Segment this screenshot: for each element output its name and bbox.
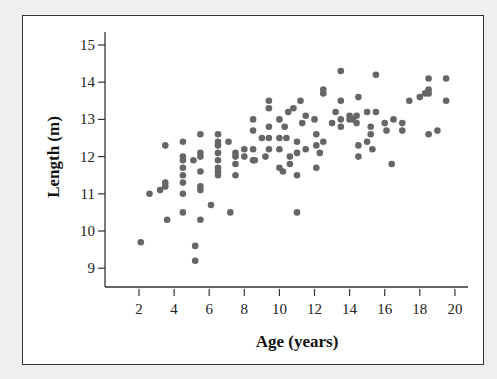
data-point <box>353 120 360 127</box>
data-point <box>302 146 309 153</box>
data-point <box>338 98 345 105</box>
data-point <box>329 120 336 127</box>
data-point <box>197 217 204 224</box>
data-point <box>320 90 327 97</box>
data-point <box>399 120 406 127</box>
y-tick-label: 14 <box>80 74 96 90</box>
data-point <box>425 131 432 138</box>
data-point <box>180 191 187 198</box>
data-point <box>276 135 283 142</box>
data-point <box>192 258 199 265</box>
data-point <box>355 94 362 101</box>
data-point <box>197 153 204 160</box>
data-point <box>250 146 257 153</box>
data-point <box>281 124 288 131</box>
y-tick-label: 13 <box>80 111 95 127</box>
data-point <box>373 109 380 116</box>
x-tick-label: 16 <box>377 301 393 317</box>
data-point <box>208 202 215 209</box>
data-point <box>276 116 283 123</box>
x-tick-label: 6 <box>205 301 213 317</box>
data-point <box>180 157 187 164</box>
data-points <box>138 68 450 264</box>
data-point <box>215 172 222 179</box>
data-point <box>294 172 301 179</box>
data-point <box>425 90 432 97</box>
data-point <box>338 116 345 123</box>
x-axis-title: Age (years) <box>256 332 339 351</box>
data-point <box>215 157 222 164</box>
data-point <box>227 209 234 216</box>
data-point <box>180 172 187 179</box>
data-point <box>266 98 273 105</box>
data-point <box>215 150 222 157</box>
data-point <box>443 75 450 82</box>
y-tick-label: 9 <box>88 260 96 276</box>
x-tick-label: 10 <box>272 301 287 317</box>
data-point <box>180 165 187 172</box>
data-point <box>311 116 318 123</box>
data-point <box>180 179 187 186</box>
data-point <box>399 127 406 134</box>
data-point <box>232 153 239 160</box>
data-point <box>317 150 324 157</box>
data-point <box>388 161 395 168</box>
data-point <box>241 146 248 153</box>
y-tick-label: 12 <box>80 149 95 165</box>
data-point <box>180 138 187 145</box>
data-point <box>294 150 301 157</box>
x-tick-label: 4 <box>170 301 178 317</box>
data-point <box>138 239 145 246</box>
data-point <box>197 168 204 175</box>
data-point <box>290 105 297 112</box>
x-tick-label: 18 <box>412 301 427 317</box>
y-axis-title: Length (m) <box>44 116 63 198</box>
data-point <box>373 72 380 79</box>
y-tick-label: 11 <box>81 186 95 202</box>
data-point <box>164 217 171 224</box>
data-point <box>313 131 320 138</box>
data-point <box>250 127 257 134</box>
data-point <box>266 105 273 112</box>
x-tick-label: 14 <box>342 301 358 317</box>
data-point <box>287 153 294 160</box>
data-point <box>297 98 304 105</box>
data-point <box>197 131 204 138</box>
data-point <box>299 120 306 127</box>
data-point <box>262 153 269 160</box>
data-point <box>259 135 266 142</box>
data-point <box>367 124 374 131</box>
data-point <box>313 142 320 149</box>
data-point <box>443 98 450 105</box>
data-point <box>252 157 259 164</box>
data-point <box>266 135 273 142</box>
data-point <box>190 157 197 164</box>
data-point <box>406 98 413 105</box>
y-tick-label: 15 <box>80 37 95 53</box>
data-point <box>369 146 376 153</box>
data-point <box>266 124 273 131</box>
data-point <box>390 116 397 123</box>
axes: 91011121314152468101214161820 <box>80 32 468 317</box>
data-point <box>367 131 374 138</box>
data-point <box>162 142 169 149</box>
data-point <box>162 179 169 186</box>
data-point <box>276 146 283 153</box>
data-point <box>338 124 345 131</box>
data-point <box>287 161 294 168</box>
data-point <box>338 68 345 75</box>
data-point <box>294 209 301 216</box>
data-point <box>383 127 390 134</box>
data-point <box>302 112 309 119</box>
data-point <box>332 109 339 116</box>
data-point <box>146 191 153 198</box>
data-point <box>215 142 222 149</box>
scatter-plot: 91011121314152468101214161820 Age (years… <box>0 0 497 379</box>
data-point <box>250 116 257 123</box>
data-point <box>225 138 232 145</box>
data-point <box>232 161 239 168</box>
x-tick-label: 2 <box>135 301 143 317</box>
data-point <box>364 138 371 145</box>
x-tick-label: 8 <box>241 301 249 317</box>
y-tick-label: 10 <box>80 223 95 239</box>
